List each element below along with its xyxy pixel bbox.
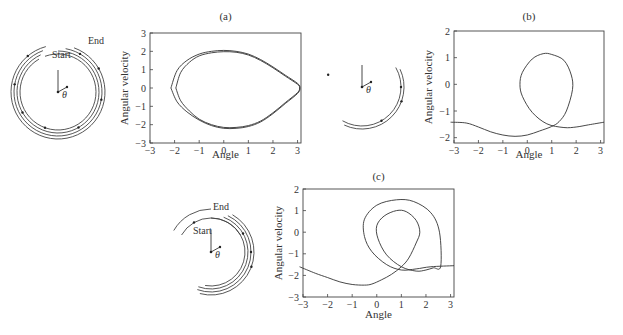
- y-tick-label: −1: [439, 106, 450, 117]
- x-tick-label: 2: [270, 145, 275, 156]
- y-tick-label: −2: [135, 119, 146, 130]
- x-tick-label: −3: [449, 145, 460, 156]
- x-tick-label: −2: [322, 299, 333, 310]
- start-label: Start: [193, 225, 212, 236]
- x-tick-label: 3: [598, 145, 603, 156]
- theta-label: θ: [215, 249, 220, 260]
- y-tick-label: 2: [294, 184, 299, 195]
- y-tick-label: 0: [445, 79, 450, 90]
- series-line: [451, 53, 604, 136]
- y-tick-label: 2: [141, 46, 146, 57]
- theta-label: θ: [62, 89, 67, 100]
- x-tick-label: 3: [448, 299, 453, 310]
- x-tick-label: −2: [473, 145, 484, 156]
- y-tick-label: −1: [135, 101, 146, 112]
- x-axis-label: Angle: [516, 148, 543, 160]
- x-tick-label: −1: [194, 145, 205, 156]
- y-tick-label: −3: [288, 292, 299, 303]
- x-tick-label: −3: [298, 299, 309, 310]
- pendulum-diagram-a: θStartEnd: [11, 35, 105, 139]
- y-axis-label: Angular velocity: [118, 50, 130, 125]
- series-line: [176, 52, 300, 128]
- y-tick-label: 1: [294, 205, 299, 216]
- chart-panel-c: (c)−3−2−10123−3−2−1012AngleAngular veloc…: [272, 170, 454, 320]
- x-tick-label: 1: [246, 145, 251, 156]
- y-tick-label: 2: [445, 26, 450, 37]
- y-tick-label: 0: [294, 227, 299, 238]
- x-axis-label: Angle: [365, 308, 392, 320]
- x-axis-label: Angle: [212, 148, 239, 160]
- y-tick-label: 1: [141, 64, 146, 75]
- end-label: End: [213, 201, 229, 212]
- x-tick-label: 2: [423, 299, 428, 310]
- x-tick-label: −3: [145, 145, 156, 156]
- series-line: [171, 50, 300, 128]
- x-tick-label: 1: [549, 145, 554, 156]
- figure-canvas: (a)−3−2−10123−3−2−10123AngleAngular velo…: [0, 0, 623, 335]
- y-tick-label: 3: [141, 28, 146, 39]
- start-label: Start: [52, 49, 71, 60]
- y-tick-label: 1: [445, 52, 450, 63]
- y-axis-label: Angular velocity: [272, 205, 284, 280]
- series-line: [300, 199, 454, 285]
- y-tick-label: −1: [288, 248, 299, 259]
- pendulum-diagram-b: θ: [327, 51, 404, 129]
- panel-title: (b): [523, 10, 536, 23]
- panel-title: (c): [372, 170, 385, 183]
- end-label: End: [88, 35, 104, 46]
- x-tick-label: 3: [295, 145, 300, 156]
- y-tick-label: −2: [439, 132, 450, 143]
- pendulum-diagram-c: θStartEnd: [174, 201, 254, 295]
- y-axis-label: Angular velocity: [422, 49, 434, 124]
- y-tick-label: −2: [288, 270, 299, 281]
- x-tick-label: −1: [498, 145, 509, 156]
- x-tick-label: 2: [574, 145, 579, 156]
- y-tick-label: −3: [135, 138, 146, 149]
- theta-label: θ: [366, 84, 371, 95]
- x-tick-label: −1: [347, 299, 358, 310]
- x-tick-label: −2: [169, 145, 180, 156]
- chart-panel-a: (a)−3−2−10123−3−2−10123AngleAngular velo…: [118, 10, 301, 160]
- x-tick-label: 1: [399, 299, 404, 310]
- y-tick-label: 0: [141, 83, 146, 94]
- chart-panel-b: (b)−3−2−10123−2−1012AngleAngular velocit…: [422, 10, 604, 160]
- panel-title: (a): [219, 10, 232, 23]
- plot-frame: [150, 33, 301, 143]
